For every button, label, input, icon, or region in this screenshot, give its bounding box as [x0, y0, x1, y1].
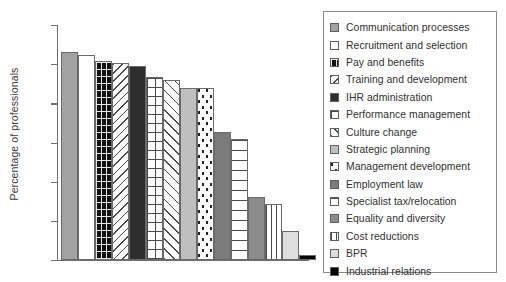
legend-item-label: IHR administration — [346, 92, 432, 103]
bar-management-development[interactable] — [197, 88, 214, 260]
bar-employment-law[interactable] — [214, 132, 231, 260]
bar-culture-change[interactable] — [163, 80, 180, 260]
legend-swatch-icon — [330, 267, 339, 276]
legend-item[interactable]: Training and development — [330, 71, 496, 88]
legend-swatch-icon — [330, 58, 339, 67]
bar-specialist-tax-relocation[interactable] — [231, 139, 248, 260]
y-tick-mark — [51, 260, 57, 261]
legend-item[interactable]: Specialist tax/relocation — [330, 193, 496, 210]
legend-swatch-icon — [330, 214, 339, 223]
legend-item[interactable]: Culture change — [330, 123, 496, 140]
legend-item-label: Performance management — [346, 109, 470, 120]
legend-item-label: Culture change — [346, 127, 417, 138]
legend-item-label: Pay and benefits — [346, 57, 424, 68]
y-tick-mark — [51, 143, 57, 144]
legend-swatch-icon — [330, 128, 339, 137]
legend-swatch-icon — [330, 180, 339, 189]
plot-area: Percentage of professionals 454035302520… — [0, 0, 320, 282]
bar-performance-management[interactable] — [146, 77, 163, 260]
legend-item-label: Recruitment and selection — [346, 40, 467, 51]
legend-swatch-icon — [330, 110, 339, 119]
bar-ihr-administration[interactable] — [129, 66, 146, 260]
x-axis-line — [57, 260, 309, 261]
y-axis-title: Percentage of professionals — [8, 34, 20, 234]
legend-item[interactable]: Management development — [330, 158, 496, 175]
legend-item[interactable]: BPR — [330, 245, 496, 262]
legend-item[interactable]: Cost reductions — [330, 228, 496, 245]
bar-cost-reductions[interactable] — [265, 204, 282, 260]
legend-swatch-icon — [330, 75, 339, 84]
legend-item-label: Management development — [346, 161, 470, 172]
legend-item[interactable]: Equality and diversity — [330, 210, 496, 227]
legend-item[interactable]: Communication processes — [330, 19, 496, 36]
bar-communication-processes[interactable] — [61, 52, 78, 260]
legend-item-label: Training and development — [346, 74, 467, 85]
legend-item-label: Employment law — [346, 179, 423, 190]
legend-swatch-icon — [330, 23, 339, 32]
bar-equality-and-diversity[interactable] — [248, 197, 265, 260]
y-tick-mark — [51, 103, 57, 104]
legend-item[interactable]: Strategic planning — [330, 141, 496, 158]
legend-item-label: Strategic planning — [346, 144, 430, 155]
legend-item[interactable]: Industrial relations — [330, 262, 496, 279]
chart-legend: Communication processesRecruitment and s… — [323, 11, 497, 273]
bar-bpr[interactable] — [282, 231, 299, 260]
legend-item-label: BPR — [346, 248, 368, 259]
legend-swatch-icon — [330, 162, 339, 171]
legend-swatch-icon — [330, 232, 339, 241]
y-tick-mark — [51, 221, 57, 222]
legend-item-label: Cost reductions — [346, 231, 419, 242]
bar-recruitment-and-selection[interactable] — [78, 55, 95, 260]
legend-swatch-icon — [330, 197, 339, 206]
legend-item[interactable]: Recruitment and selection — [330, 36, 496, 53]
bar-training-and-development[interactable] — [112, 63, 129, 260]
y-tick-mark — [51, 25, 57, 26]
y-tick-mark — [51, 182, 57, 183]
legend-item[interactable]: Pay and benefits — [330, 54, 496, 71]
legend-item-label: Communication processes — [346, 22, 470, 33]
legend-item[interactable]: Employment law — [330, 176, 496, 193]
bar-chart-figure: Percentage of professionals 454035302520… — [0, 0, 506, 282]
bar-industrial-relations[interactable] — [299, 255, 316, 260]
legend-item-label: Equality and diversity — [346, 213, 445, 224]
legend-item-label: Industrial relations — [346, 266, 431, 277]
legend-item[interactable]: IHR administration — [330, 89, 496, 106]
legend-swatch-icon — [330, 145, 339, 154]
legend-item[interactable]: Performance management — [330, 106, 496, 123]
bar-pay-and-benefits[interactable] — [95, 61, 112, 260]
legend-swatch-icon — [330, 93, 339, 102]
bar-series — [58, 25, 310, 260]
legend-swatch-icon — [330, 41, 339, 50]
legend-item-label: Specialist tax/relocation — [346, 196, 456, 207]
legend-swatch-icon — [330, 249, 339, 258]
bar-strategic-planning[interactable] — [180, 88, 197, 260]
y-tick-mark — [51, 64, 57, 65]
